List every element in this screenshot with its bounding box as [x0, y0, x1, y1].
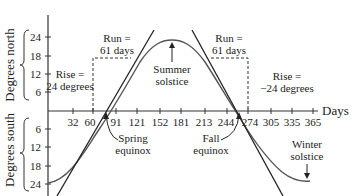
annotation-winter-solstice: Winter solstice — [291, 138, 324, 179]
svg-text:solstice: solstice — [156, 75, 189, 87]
annotation-fall-run: Run = 61 days — [212, 32, 246, 56]
fall-rise-run-dashes — [211, 58, 248, 111]
annotation-spring-run: Run = 61 days — [100, 32, 134, 56]
y-tick-label: 6 — [36, 123, 42, 135]
y-tick-label: 18 — [30, 160, 42, 172]
x-tick-label: 60 — [85, 116, 97, 128]
x-tick-label: 121 — [129, 116, 146, 128]
svg-text:Run =: Run = — [215, 32, 242, 44]
y-tick-label: 24 — [30, 178, 42, 190]
svg-text:61 days: 61 days — [100, 44, 134, 56]
x-tick-label: 181 — [173, 116, 190, 128]
y-tick-label: 18 — [30, 50, 42, 62]
y-axis-label-south: Degrees south — [2, 113, 17, 188]
svg-text:Spring: Spring — [118, 132, 148, 144]
x-tick-label: 365 — [305, 116, 322, 128]
x-tick-label: 244 — [218, 116, 235, 128]
declination-chart: Days Degrees north Degrees south 24 18 1… — [0, 0, 354, 196]
brace-south — [20, 118, 29, 191]
brace-north — [20, 30, 29, 100]
svg-text:Summer: Summer — [153, 63, 191, 75]
y-axis-label-north: Degrees north — [2, 28, 17, 102]
svg-text:solstice: solstice — [291, 150, 324, 162]
svg-text:Rise =: Rise = — [273, 70, 302, 82]
svg-text:Fall: Fall — [202, 132, 219, 144]
x-tick-label: 152 — [152, 116, 169, 128]
svg-text:61 days: 61 days — [212, 44, 246, 56]
svg-text:Run =: Run = — [103, 32, 130, 44]
y-tick-label: 12 — [30, 141, 41, 153]
y-tick-label: 6 — [36, 86, 42, 98]
svg-text:equinox: equinox — [193, 144, 229, 156]
annotation-summer-solstice: Summer solstice — [153, 42, 191, 87]
x-tick-label: 213 — [196, 116, 213, 128]
y-tick-label: 24 — [30, 31, 42, 43]
x-tick-label: 335 — [284, 116, 301, 128]
x-tick-label: 305 — [263, 116, 280, 128]
svg-text:−24 degrees: −24 degrees — [260, 82, 314, 94]
svg-text:Rise =: Rise = — [56, 68, 85, 80]
y-tick-label: 12 — [30, 68, 41, 80]
annotation-fall-rise: Rise = −24 degrees — [260, 70, 314, 94]
svg-text:equinox: equinox — [115, 144, 151, 156]
x-tick-label: 32 — [68, 116, 79, 128]
x-tick-label: 91 — [111, 116, 122, 128]
svg-text:Winter: Winter — [292, 138, 322, 150]
annotation-spring-rise: Rise = 24 degrees — [46, 68, 93, 92]
x-axis-label: Days — [322, 103, 349, 118]
svg-text:24 degrees: 24 degrees — [46, 80, 93, 92]
